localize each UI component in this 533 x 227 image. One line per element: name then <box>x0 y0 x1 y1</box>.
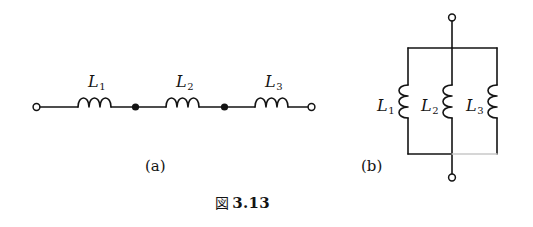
inductor-label-a-L2-subscript: 2 <box>187 81 193 92</box>
terminal-open-circle-bottom <box>449 174 456 181</box>
panel-b-sub-caption: (b) <box>361 159 382 174</box>
panel-a-sub-caption: (a) <box>145 159 166 174</box>
figure-container: L1 L2 L3 L1 L2 L3 (a) (b) 図3.13 <box>0 0 533 227</box>
terminal-open-circle-left <box>33 104 40 111</box>
inductor-label-a-L2-symbol: L <box>176 72 187 91</box>
inductor-coil-L2 <box>166 98 199 107</box>
inductor-label-b-L1: L1 <box>377 98 394 114</box>
inductor-coil-b-L1 <box>399 85 408 118</box>
inductor-label-b-L1-subscript: 1 <box>388 105 394 116</box>
panel-a-series-circuit <box>33 98 315 111</box>
inductor-label-a-L3: L3 <box>265 74 282 90</box>
inductor-label-a-L2: L2 <box>176 74 193 90</box>
inductor-label-a-L1-symbol: L <box>88 72 99 91</box>
inductor-coil-b-L2 <box>443 85 452 118</box>
inductor-label-a-L3-subscript: 3 <box>276 81 282 92</box>
terminal-open-circle-right <box>308 104 315 111</box>
inductor-label-a-L1: L1 <box>88 74 105 90</box>
terminal-open-circle-top <box>449 14 456 21</box>
figure-caption-number: 3.13 <box>232 194 270 212</box>
inductor-label-a-L3-symbol: L <box>265 72 276 91</box>
inductor-label-b-L2-subscript: 2 <box>432 105 438 116</box>
inductor-label-b-L1-symbol: L <box>377 96 388 115</box>
circuit-diagram-svg <box>0 0 533 227</box>
inductor-coil-L3 <box>255 98 288 107</box>
inductor-label-b-L3-symbol: L <box>466 96 477 115</box>
inductor-label-a-L1-subscript: 1 <box>99 81 105 92</box>
figure-caption: 図3.13 <box>215 196 270 211</box>
inductor-label-b-L2-symbol: L <box>421 96 432 115</box>
inductor-label-b-L3: L3 <box>466 98 483 114</box>
inductor-coil-L1 <box>78 98 111 107</box>
inductor-coil-b-L3 <box>488 85 497 118</box>
inductor-label-b-L3-subscript: 3 <box>477 105 483 116</box>
inductor-label-b-L2: L2 <box>421 98 438 114</box>
figure-caption-mark: 図 <box>215 195 232 211</box>
